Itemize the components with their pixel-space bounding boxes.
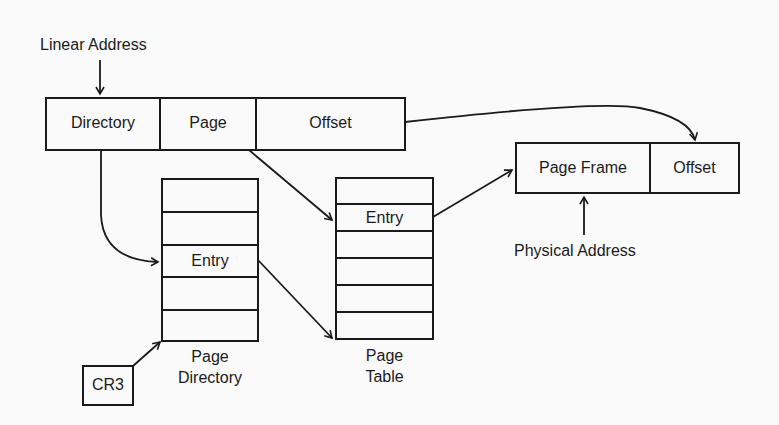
table-entry-to-frame-arrow bbox=[433, 170, 512, 217]
page-directory-caption-2: Directory bbox=[150, 369, 270, 387]
physical-address-label: Physical Address bbox=[514, 242, 636, 260]
offset-field: Offset bbox=[256, 114, 405, 132]
page-table-caption-2: Table bbox=[336, 368, 433, 386]
page-table-caption-1: Page bbox=[336, 347, 433, 365]
offset-to-offset-arrow bbox=[405, 106, 695, 140]
directory-to-entry-arrow bbox=[101, 150, 158, 262]
page-directory-caption-1: Page bbox=[150, 348, 270, 366]
page-to-table-entry-arrow bbox=[249, 150, 332, 220]
physical-offset-field: Offset bbox=[650, 159, 739, 177]
directory-field: Directory bbox=[46, 114, 160, 132]
page-directory-entry: Entry bbox=[162, 252, 258, 270]
page-field: Page bbox=[160, 114, 256, 132]
page-table-entry: Entry bbox=[336, 209, 433, 227]
cr3-label: CR3 bbox=[83, 376, 133, 394]
dir-entry-to-table-arrow bbox=[258, 260, 332, 338]
page-frame-field: Page Frame bbox=[516, 159, 650, 177]
linear-address-label: Linear Address bbox=[40, 36, 147, 54]
